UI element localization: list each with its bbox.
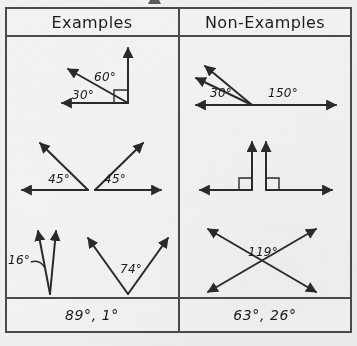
label-ex-16: 16° bbox=[8, 253, 30, 267]
label-ex-45-left: 45° bbox=[48, 172, 70, 186]
clipped-glyph-mark bbox=[148, 0, 161, 4]
footer-divider bbox=[5, 297, 352, 299]
label-ex-60: 60° bbox=[94, 70, 116, 84]
footer-non-examples: 63°, 26° bbox=[180, 300, 350, 330]
label-ex-45-right: 45° bbox=[104, 172, 126, 186]
column-divider bbox=[178, 7, 180, 333]
footer-examples: 89°, 1° bbox=[7, 300, 177, 330]
label-ex-74: 74° bbox=[120, 262, 142, 276]
column-header-examples: Examples bbox=[7, 10, 177, 34]
label-nonex-119: 119° bbox=[248, 245, 278, 259]
label-ex-30: 30° bbox=[72, 88, 94, 102]
label-nonex-30: 30° bbox=[210, 86, 232, 100]
column-header-non-examples: Non-Examples bbox=[180, 10, 350, 34]
label-nonex-150: 150° bbox=[268, 86, 298, 100]
